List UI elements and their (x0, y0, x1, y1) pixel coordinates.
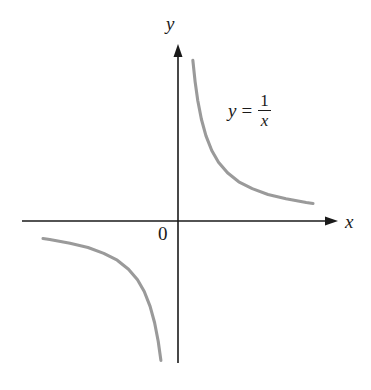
y-axis-arrowhead (174, 44, 183, 57)
hyperbola-branch-positive (193, 60, 313, 203)
origin-label: 0 (158, 224, 168, 243)
equation-annotation: y = 1 x (228, 92, 271, 129)
x-axis-label: x (345, 212, 353, 231)
equation-fraction: 1 x (258, 92, 271, 129)
y-axis (174, 44, 183, 363)
equation-lhs: y (228, 101, 236, 120)
fraction-numerator: 1 (258, 92, 271, 110)
function-graph-figure: y x 0 y = 1 x (0, 0, 371, 390)
y-axis-label: y (166, 14, 174, 33)
equation-relation: = (241, 101, 252, 120)
plot-canvas (0, 0, 371, 390)
x-axis-arrowhead (325, 217, 338, 226)
x-axis (22, 217, 338, 226)
hyperbola-branch-negative (43, 238, 161, 360)
fraction-denominator: x (259, 111, 271, 129)
